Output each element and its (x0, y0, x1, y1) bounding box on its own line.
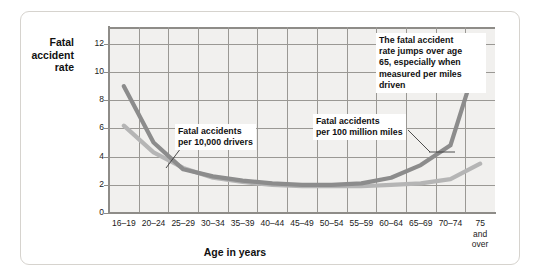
gridline-vertical (198, 27, 199, 213)
plot-top-border (109, 27, 495, 29)
y-axis-title-line: accident (12, 49, 74, 62)
y-axis-title-line: Fatal (12, 36, 74, 49)
gridline-vertical (257, 27, 258, 213)
gridline-vertical (228, 27, 229, 213)
gridline-horizontal (109, 157, 495, 158)
y-tick-mark (104, 44, 109, 45)
y-axis-title-line: rate (12, 61, 74, 74)
y-tick-label: 2 (82, 179, 104, 189)
x-axis-title-text: Age in years (204, 246, 266, 258)
gridline-horizontal (109, 185, 495, 186)
gridline-vertical (287, 27, 288, 213)
y-tick-label: 10 (82, 66, 104, 76)
gridline-horizontal (109, 128, 495, 129)
y-tick-mark (104, 128, 109, 129)
y-tick-mark (104, 157, 109, 158)
y-tick-label: 8 (82, 94, 104, 104)
gridline-horizontal (109, 100, 495, 101)
gridline-vertical (139, 27, 140, 213)
x-tick-label: 75andover (454, 218, 506, 250)
y-tick-mark (104, 185, 109, 186)
gridline-vertical (168, 27, 169, 213)
x-tick-label-line: 75 (454, 218, 506, 229)
x-axis-line (109, 212, 496, 214)
callout-miles: Fatal accidents per 100 million miles (313, 114, 406, 140)
callout-drivers: Fatal accidents per 10,000 drivers (175, 124, 256, 150)
x-tick-label-line: and (454, 229, 506, 240)
y-tick-label: 4 (82, 151, 104, 161)
y-tick-mark (104, 72, 109, 73)
y-tick-mark (104, 100, 109, 101)
y-tick-labels: 024681012 (78, 0, 104, 280)
x-tick-label-line: over (454, 239, 506, 250)
callout-jump: The fatal accident rate jumps over age 6… (376, 33, 486, 93)
y-axis-title: Fatalaccidentrate (12, 36, 74, 74)
y-tick-label: 6 (82, 122, 104, 132)
y-tick-label: 12 (82, 38, 104, 48)
y-tick-label: 0 (82, 207, 104, 217)
chart-figure: Fatalaccidentrate 024681012 Fatal accide… (0, 0, 542, 280)
y-tick-mark (104, 213, 109, 214)
